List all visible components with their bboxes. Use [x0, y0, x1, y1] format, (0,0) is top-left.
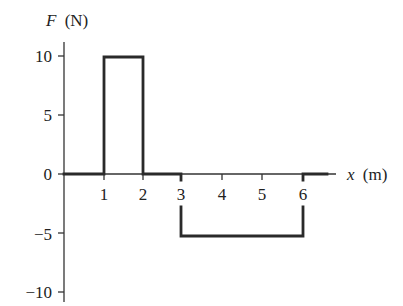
x-tick-label: 5: [258, 185, 267, 204]
x-tick-label: 4: [218, 185, 227, 204]
x-tick-label: 6: [299, 185, 308, 204]
x-tick-label: 2: [139, 185, 148, 204]
y-tick-label: 0: [44, 165, 53, 184]
y-tick-label: 5: [44, 106, 53, 125]
x-ticks: [104, 174, 303, 180]
x-tick-label: 1: [100, 185, 109, 204]
y-axis-title: F (N): [45, 11, 88, 30]
y-tick-label: −10: [25, 283, 52, 302]
force-series: [64, 57, 327, 236]
x-tick-label: 3: [177, 185, 186, 204]
force-vs-position-chart: 10 5 0 −5 −10 1 2 3 4 5 6 F (N) x (m): [0, 0, 403, 306]
x-axis-title: x (m): [346, 165, 387, 184]
y-tick-label: −5: [34, 225, 52, 244]
y-tick-label: 10: [35, 47, 52, 66]
